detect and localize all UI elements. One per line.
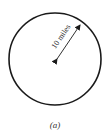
circle-diagram: 10 miles (a) [0, 0, 103, 139]
radius-label: 10 miles [49, 23, 72, 51]
circle-outline [9, 13, 101, 105]
figure-caption: (a) [50, 120, 61, 130]
